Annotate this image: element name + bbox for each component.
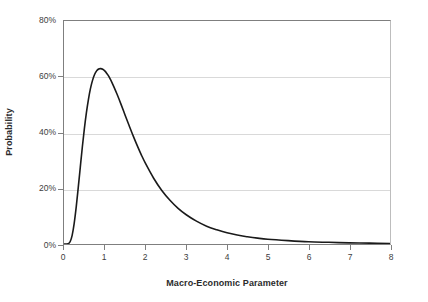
y-tick-label: 60%: [39, 72, 56, 81]
x-tick-mark: [186, 245, 187, 250]
x-tick-mark: [227, 245, 228, 250]
y-axis-title: Probability: [4, 20, 20, 245]
probability-density-curve: [64, 21, 390, 244]
x-tick-label: 8: [389, 252, 394, 262]
x-axis-title: Macro-Economic Parameter: [63, 278, 391, 288]
x-tick-mark: [309, 245, 310, 250]
x-tick-mark: [350, 245, 351, 250]
y-tick-label: 0%: [44, 241, 56, 250]
y-tick-label: 40%: [39, 128, 56, 137]
y-tick-label: 80%: [39, 16, 56, 25]
x-tick-mark: [391, 245, 392, 250]
y-tick-mark: [58, 189, 63, 190]
x-tick-label: 4: [225, 252, 230, 262]
x-tick-label: 7: [348, 252, 353, 262]
x-tick-label: 2: [143, 252, 148, 262]
x-tick-mark: [63, 245, 64, 250]
x-tick-label: 0: [61, 252, 66, 262]
y-tick-mark: [58, 133, 63, 134]
x-tick-label: 3: [184, 252, 189, 262]
x-tick-label: 1: [102, 252, 107, 262]
plot-area: [63, 20, 391, 245]
x-tick-mark: [104, 245, 105, 250]
x-tick-mark: [145, 245, 146, 250]
y-tick-label: 20%: [39, 184, 56, 193]
chart-container: 80% 60% 40% 20% 0% 0 1 2 3 4 5 6 7 8 Mac…: [0, 0, 428, 302]
x-tick-label: 5: [266, 252, 271, 262]
x-tick-mark: [268, 245, 269, 250]
x-tick-label: 6: [307, 252, 312, 262]
y-tick-mark: [58, 76, 63, 77]
